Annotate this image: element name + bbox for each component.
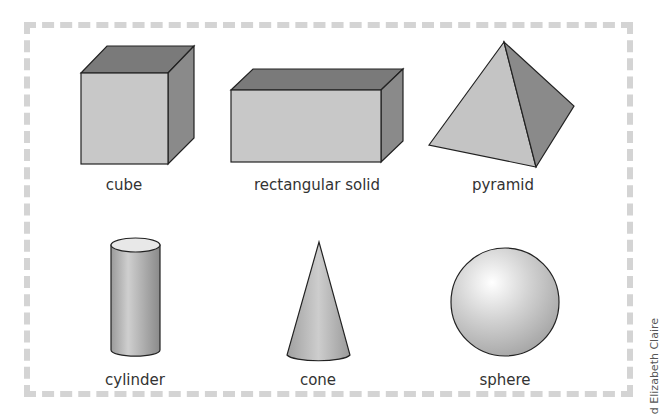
credit-text: d Elizabeth Claire — [648, 318, 661, 414]
label-sphere: sphere — [405, 371, 605, 389]
label-cylinder: cylinder — [35, 371, 235, 389]
rectangular-solid-shape — [231, 69, 403, 162]
cone-shape — [287, 242, 350, 361]
cylinder-shape — [111, 238, 160, 356]
cube-shape — [81, 46, 194, 164]
label-pyramid: pyramid — [403, 176, 603, 194]
label-cube: cube — [24, 176, 224, 194]
label-rectangular-solid: rectangular solid — [217, 176, 417, 194]
label-cone: cone — [218, 371, 418, 389]
pyramid-shape — [429, 42, 574, 167]
sphere-shape — [451, 248, 559, 356]
